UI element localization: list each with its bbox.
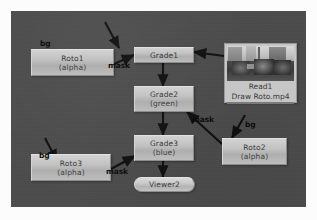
node-roto1-name: Roto1 <box>61 54 83 63</box>
node-grade2[interactable]: Grade2 (green) <box>134 86 194 112</box>
node-viewer2-name: Viewer2 <box>149 180 180 189</box>
node-roto2[interactable]: Roto2 (alpha) <box>222 138 287 165</box>
node-roto3-name: Roto3 <box>60 159 82 168</box>
node-grade3-name: Grade3 <box>150 139 178 148</box>
node-read1-filename: Draw Roto.mp4 <box>227 91 294 101</box>
screenshot-root: Roto1 (alpha) Grade1 Read1 Draw Roto.mp4 <box>0 0 317 220</box>
node-read1-name: Read1 <box>227 81 294 91</box>
wire-label-mask-roto1: mask <box>108 62 130 70</box>
node-grade1-name: Grade1 <box>150 51 178 60</box>
node-grade2-name: Grade2 <box>150 90 178 99</box>
node-graph-canvas[interactable]: Roto1 (alpha) Grade1 Read1 Draw Roto.mp4 <box>11 11 306 207</box>
node-viewer2[interactable]: Viewer2 <box>134 177 195 192</box>
node-roto2-sublabel: (alpha) <box>241 152 268 161</box>
read1-progress-bar <box>227 102 294 104</box>
node-grade2-sublabel: (green) <box>150 99 178 108</box>
wire-bg-to-roto1 <box>105 22 119 48</box>
node-roto1[interactable]: Roto1 (alpha) <box>31 49 114 76</box>
node-roto1-sublabel: (alpha) <box>59 63 86 72</box>
wire-read1-to-grade1 <box>194 52 224 56</box>
wire-label-bg-roto3: bg <box>39 152 50 160</box>
wire-label-mask-roto3: mask <box>106 168 128 176</box>
wire-label-bg-roto2: bg <box>245 121 256 129</box>
wire-bg-to-roto2 <box>232 115 245 138</box>
node-grade1[interactable]: Grade1 <box>134 47 194 63</box>
wire-label-bg-roto1: bg <box>40 40 51 48</box>
node-grade3[interactable]: Grade3 (blue) <box>134 135 194 161</box>
node-read1[interactable]: Read1 Draw Roto.mp4 <box>224 43 297 103</box>
node-roto2-name: Roto2 <box>243 143 265 152</box>
node-roto3-sublabel: (alpha) <box>57 168 84 177</box>
read1-thumbnail <box>227 46 294 81</box>
wire-label-mask-roto2: mask <box>192 116 214 124</box>
node-grade3-sublabel: (blue) <box>153 148 176 157</box>
